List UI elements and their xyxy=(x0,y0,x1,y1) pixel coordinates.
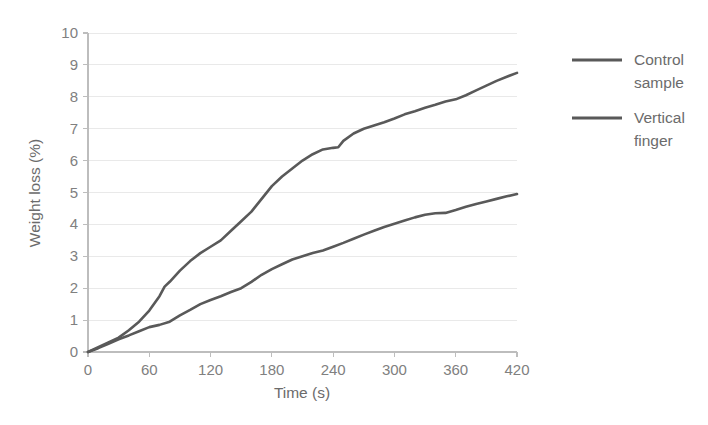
series-line-vertical-finger xyxy=(88,73,517,352)
y-tick-label-3: 3 xyxy=(70,247,78,264)
x-tick-label-420: 420 xyxy=(504,361,529,378)
y-tick-label-1: 1 xyxy=(70,311,78,328)
gridlines xyxy=(88,33,517,320)
legend: Control sample Vertical finger xyxy=(572,51,685,149)
y-tick-label-9: 9 xyxy=(70,56,78,73)
y-tick-label-2: 2 xyxy=(70,279,78,296)
x-axis-ticks: 060120180240300360420 xyxy=(84,352,530,378)
x-tick-label-120: 120 xyxy=(198,361,223,378)
weight-loss-line-chart: 012345678910 060120180240300360420 Time … xyxy=(0,0,708,425)
x-tick-label-0: 0 xyxy=(84,361,92,378)
y-tick-label-8: 8 xyxy=(70,88,78,105)
legend-label-control-sample-line1: Control xyxy=(634,51,684,68)
y-tick-label-0: 0 xyxy=(70,343,78,360)
x-tick-label-300: 300 xyxy=(382,361,407,378)
chart-canvas: 012345678910 060120180240300360420 Time … xyxy=(0,0,708,425)
x-axis-title: Time (s) xyxy=(274,384,330,401)
x-tick-label-180: 180 xyxy=(259,361,284,378)
x-tick-label-60: 60 xyxy=(141,361,158,378)
series-line-control-sample xyxy=(88,194,517,352)
x-tick-label-360: 360 xyxy=(443,361,468,378)
data-series-group xyxy=(88,73,517,352)
y-tick-label-10: 10 xyxy=(61,24,78,41)
legend-label-control-sample-line2: sample xyxy=(634,74,684,91)
y-tick-label-7: 7 xyxy=(70,120,78,137)
x-tick-label-240: 240 xyxy=(321,361,346,378)
legend-label-vertical-finger-line1: Vertical xyxy=(634,109,685,126)
y-tick-label-4: 4 xyxy=(70,215,78,232)
legend-label-vertical-finger-line2: finger xyxy=(634,132,673,149)
y-tick-label-5: 5 xyxy=(70,184,78,201)
y-axis-ticks: 012345678910 xyxy=(61,24,88,360)
y-axis-title: Weight loss (%) xyxy=(26,139,43,247)
y-tick-label-6: 6 xyxy=(70,152,78,169)
